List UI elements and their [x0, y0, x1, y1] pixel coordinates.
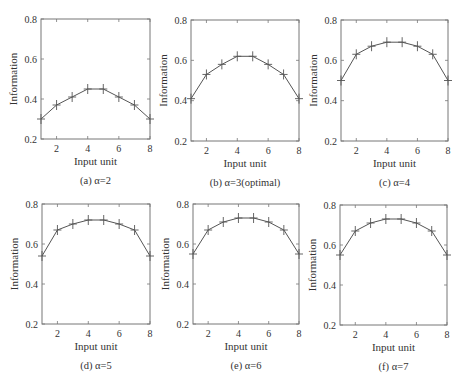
y-tick-label: 0.2: [175, 136, 188, 147]
data-point-marker: [412, 218, 420, 228]
x-tick-label: 8: [297, 328, 302, 339]
x-tick-label: 4: [235, 145, 240, 156]
figure: 0.20.40.60.82468Input unitInformation(a)…: [0, 0, 465, 382]
plot-frame: [42, 204, 150, 324]
data-point-marker: [53, 225, 61, 235]
subplot-c: 0.20.40.60.82468Input unitInformation(c)…: [307, 15, 452, 190]
data-point-marker: [115, 219, 123, 229]
y-tick-label: 0.8: [25, 14, 38, 25]
x-axis-label: Input unit: [223, 157, 266, 169]
data-point-marker: [398, 37, 406, 47]
y-tick-label: 0.4: [175, 95, 188, 106]
y-tick-label: 0.6: [26, 239, 39, 250]
subplot-caption-a: (a) α=2: [80, 175, 111, 187]
x-tick-label: 2: [354, 145, 359, 156]
x-tick-label: 4: [236, 328, 241, 339]
series-line: [41, 89, 150, 119]
y-tick-label: 0.2: [324, 320, 337, 331]
y-tick-label: 0.6: [325, 55, 338, 66]
y-tick-label: 0.2: [325, 136, 338, 147]
x-axis-label: Input unit: [74, 155, 117, 167]
subplot-f: 0.20.40.60.82468Input unitInformation(f)…: [306, 200, 451, 374]
data-point-marker: [131, 225, 139, 235]
subplot-caption-d: (d) α=5: [80, 360, 112, 372]
data-point-marker: [68, 92, 76, 102]
y-tick-label: 0.2: [26, 319, 39, 330]
x-tick-label: 2: [55, 328, 60, 339]
subplot-b: 0.20.40.60.82468Input unitInformation(b)…: [157, 15, 303, 190]
x-tick-label: 4: [85, 143, 90, 154]
plot-frame: [41, 19, 150, 139]
x-tick-label: 8: [148, 328, 153, 339]
data-point-marker: [265, 217, 273, 227]
x-tick-label: 6: [266, 145, 271, 156]
data-point-marker: [250, 213, 258, 223]
data-point-marker: [99, 84, 107, 94]
data-point-marker: [146, 251, 154, 261]
y-tick-label: 0.6: [324, 240, 337, 251]
data-point-marker: [429, 49, 437, 59]
x-tick-label: 6: [414, 329, 419, 340]
y-tick-label: 0.2: [177, 319, 190, 330]
data-point-marker: [130, 100, 138, 110]
subplot-caption-f: (f) α=7: [379, 361, 409, 373]
y-axis-label: Information: [307, 54, 319, 107]
plot-frame: [341, 20, 448, 141]
data-point-marker: [38, 251, 46, 261]
x-axis-label: Input unit: [74, 340, 117, 352]
data-point-marker: [146, 114, 154, 124]
y-tick-label: 0.4: [177, 279, 190, 290]
x-tick-label: 8: [148, 143, 153, 154]
series-line: [341, 42, 448, 80]
subplot-caption-b: (b) α=3(optimal): [210, 177, 281, 189]
data-point-marker: [249, 51, 257, 61]
y-tick-label: 0.6: [177, 239, 190, 250]
data-point-marker: [53, 100, 61, 110]
y-tick-label: 0.8: [175, 15, 188, 26]
x-tick-label: 2: [204, 145, 209, 156]
x-tick-label: 8: [446, 145, 451, 156]
data-point-marker: [295, 249, 303, 259]
y-tick-label: 0.2: [25, 134, 38, 145]
x-tick-label: 8: [445, 329, 450, 340]
y-tick-label: 0.4: [325, 95, 338, 106]
data-point-marker: [233, 51, 241, 61]
data-point-marker: [69, 219, 77, 229]
y-tick-label: 0.8: [325, 15, 338, 26]
y-tick-label: 0.6: [25, 54, 38, 65]
data-point-marker: [368, 41, 376, 51]
y-axis-label: Information: [159, 237, 171, 290]
y-tick-label: 0.4: [26, 279, 39, 290]
y-axis-label: Information: [7, 52, 19, 105]
subplot-e: 0.20.40.60.82468Input unitInformation(e)…: [159, 199, 303, 373]
x-tick-label: 4: [384, 145, 389, 156]
plot-frame: [193, 204, 299, 324]
y-tick-label: 0.4: [324, 280, 337, 291]
x-tick-label: 8: [297, 145, 302, 156]
subplot-caption-e: (e) α=6: [231, 360, 262, 372]
data-point-marker: [218, 59, 226, 69]
subplot-d: 0.20.40.60.82468Input unitInformation(d)…: [8, 199, 154, 373]
x-tick-label: 6: [116, 143, 121, 154]
x-tick-label: 2: [54, 143, 59, 154]
data-point-marker: [219, 217, 227, 227]
data-point-marker: [397, 214, 405, 224]
x-tick-label: 6: [117, 328, 122, 339]
x-tick-label: 4: [383, 329, 388, 340]
plot-frame: [191, 20, 299, 141]
data-point-marker: [444, 76, 452, 86]
x-tick-label: 2: [353, 329, 358, 340]
data-point-marker: [264, 59, 272, 69]
y-axis-label: Information: [306, 238, 318, 291]
data-point-marker: [84, 84, 92, 94]
x-tick-label: 2: [206, 328, 211, 339]
x-axis-label: Input unit: [224, 340, 267, 352]
data-point-marker: [37, 114, 45, 124]
y-axis-label: Information: [157, 54, 169, 107]
x-tick-label: 6: [266, 328, 271, 339]
y-tick-label: 0.6: [175, 55, 188, 66]
data-point-marker: [413, 41, 421, 51]
y-tick-label: 0.8: [324, 200, 337, 211]
y-tick-label: 0.8: [26, 199, 39, 210]
x-tick-label: 4: [86, 328, 91, 339]
